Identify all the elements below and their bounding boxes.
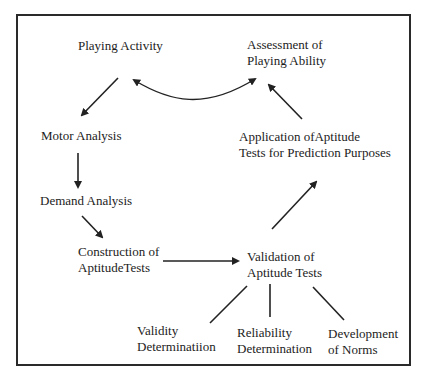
node-development-of-norms: Development of Norms: [328, 326, 398, 358]
edge-validation-to-validity: [210, 286, 247, 323]
node-text-line: Determinatiion: [137, 339, 216, 355]
node-text-line: Development: [328, 326, 398, 342]
node-text-line: Aptitude Tests: [247, 265, 322, 281]
node-text-line: Playing Ability: [247, 53, 326, 69]
edge-playing-activity-to-motor-analysis: [82, 78, 118, 115]
node-text-line: Validation of: [247, 249, 322, 265]
node-construction-of-aptitude-tests: Construction of AptitudeTests: [78, 244, 159, 276]
node-text-line: AptitudeTests: [78, 260, 159, 276]
node-demand-analysis: Demand Analysis: [40, 193, 132, 209]
node-application-of-aptitude-tests: Application ofAptitude Tests for Predict…: [239, 129, 391, 161]
edge-validation-to-application: [272, 182, 316, 229]
node-validation-of-aptitude-tests: Validation of Aptitude Tests: [247, 249, 322, 281]
node-motor-analysis: Motor Analysis: [41, 128, 122, 144]
node-reliability-determination: Reliability Determination: [237, 325, 312, 357]
node-text-line: Motor Analysis: [41, 128, 122, 144]
edge-demand-analysis-to-construction: [82, 216, 102, 237]
edge-assessment-playing-activity-curve: [134, 79, 255, 99]
node-text-line: Validity: [137, 323, 216, 339]
node-text-line: of Norms: [328, 342, 398, 358]
edge-application-to-assessment: [269, 85, 302, 119]
node-text-line: Determination: [237, 341, 312, 357]
node-text-line: Construction of: [78, 244, 159, 260]
node-text-line: Application ofAptitude: [239, 129, 391, 145]
node-text-line: Demand Analysis: [40, 193, 132, 209]
node-text-line: Reliability: [237, 325, 312, 341]
node-assessment-of-playing-ability: Assessment of Playing Ability: [247, 37, 326, 69]
edge-validation-to-norms: [313, 287, 344, 320]
node-playing-activity: Playing Activity: [78, 38, 163, 54]
node-text-line: Assessment of: [247, 37, 326, 53]
node-text-line: Tests for Prediction Purposes: [239, 145, 391, 161]
node-validity-determination: Validity Determinatiion: [137, 323, 216, 355]
node-text-line: Playing Activity: [78, 38, 163, 54]
